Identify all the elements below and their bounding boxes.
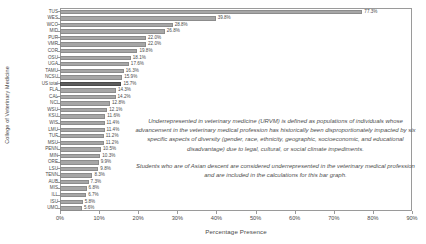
x-tick-mark <box>256 211 257 214</box>
x-tick-label: 30% <box>162 215 192 221</box>
bar-row: UMO5.6% <box>0 206 426 210</box>
bar <box>60 88 116 92</box>
category-label: FLA <box>18 87 58 93</box>
value-label: 5.8% <box>85 199 95 205</box>
category-label: PUR <box>18 35 58 41</box>
value-label: 15.9% <box>124 74 137 80</box>
bar <box>60 186 87 190</box>
category-label: NCI <box>18 100 58 106</box>
bar <box>60 36 146 40</box>
x-tick-label: 10% <box>84 215 114 221</box>
bar-rows: TUS77.3%WES39.8%WCO28.8%MID26.8%PUR22.0%… <box>0 8 426 211</box>
category-label: MSU <box>18 140 58 146</box>
annotation-block: Underrepresented in veterinary medicine … <box>133 117 418 180</box>
bar <box>60 62 129 66</box>
bar-row: NCI12.8% <box>0 101 426 105</box>
value-label: 19.8% <box>139 48 152 54</box>
category-label: COR <box>18 48 58 54</box>
bar <box>60 101 110 105</box>
category-label: AUB <box>18 179 58 185</box>
bar <box>60 160 99 164</box>
category-label: WCO <box>18 22 58 28</box>
x-tick-label: 70% <box>319 215 349 221</box>
x-tick-mark <box>295 211 296 214</box>
value-label: 26.8% <box>167 28 180 34</box>
bar <box>60 134 104 138</box>
bar <box>60 23 173 27</box>
bar <box>60 10 362 14</box>
bar <box>60 173 92 177</box>
category-label: ILL <box>18 192 58 198</box>
x-tick-label: 90% <box>397 215 426 221</box>
x-tick-mark <box>216 211 217 214</box>
bar <box>60 69 124 73</box>
annotation-paragraph-1: Underrepresented in veterinary medicine … <box>133 117 418 154</box>
x-tick-label: 50% <box>241 215 271 221</box>
category-label: WES <box>18 15 58 21</box>
category-label: ORE <box>18 159 58 165</box>
bar-row: ISU5.8% <box>0 200 426 204</box>
value-label: 9.8% <box>100 166 110 172</box>
category-label: NCSU <box>18 74 58 80</box>
bar-row: MID26.8% <box>0 29 426 33</box>
bar <box>60 141 104 145</box>
bar-row: WES39.8% <box>0 16 426 20</box>
category-label: VMR <box>18 41 58 47</box>
bar <box>60 16 216 20</box>
value-label: 14.2% <box>118 94 131 100</box>
x-tick-mark <box>334 211 335 214</box>
bar-chart: College of Veterinary Medicine TUS77.3%W… <box>0 0 426 244</box>
bar <box>60 147 101 151</box>
category-label: KSU <box>18 113 58 119</box>
x-axis-title: Percentage Presence <box>60 228 412 235</box>
bar <box>60 29 165 33</box>
value-label: 11.2% <box>106 140 119 146</box>
bar <box>60 95 116 99</box>
value-label: 14.3% <box>118 87 131 93</box>
bar <box>60 75 122 79</box>
category-label: OSU <box>18 55 58 61</box>
category-label: MID <box>18 28 58 34</box>
bar-row: US total15.7% <box>0 82 426 86</box>
bar <box>60 82 121 86</box>
bar-row: AUB7.3% <box>0 180 426 184</box>
category-label: LMU <box>18 127 58 133</box>
category-label: UGA <box>18 61 58 67</box>
x-tick-mark <box>99 211 100 214</box>
bar <box>60 154 100 158</box>
x-tick-mark <box>60 211 61 214</box>
x-tick-label: 20% <box>123 215 153 221</box>
bar-row: VMR22.0% <box>0 42 426 46</box>
bar <box>60 180 89 184</box>
x-tick-label: 0% <box>45 215 75 221</box>
bar <box>60 167 98 171</box>
category-label: PENN <box>18 146 58 152</box>
category-label: CAL <box>18 94 58 100</box>
value-label: 7.3% <box>91 179 101 185</box>
x-tick-mark <box>138 211 139 214</box>
bar-row: UGA17.6% <box>0 62 426 66</box>
x-tick-label: 80% <box>358 215 388 221</box>
category-label: TUF <box>18 133 58 139</box>
category-label: WSU <box>18 107 58 113</box>
value-label: 9.9% <box>101 159 111 165</box>
bar-row: WCO28.8% <box>0 23 426 27</box>
category-label: MIN <box>18 153 58 159</box>
category-label: TENN <box>18 172 58 178</box>
bar-row: WSU12.1% <box>0 108 426 112</box>
value-label: 16.3% <box>126 68 139 74</box>
category-label: US total <box>18 81 58 87</box>
value-label: 11.6% <box>107 113 120 119</box>
value-label: 18.1% <box>133 55 146 61</box>
annotation-paragraph-2: Students who are of Asian descent are co… <box>133 162 418 180</box>
value-label: 22.0% <box>148 41 161 47</box>
bar-row: COR19.8% <box>0 49 426 53</box>
bar-row: MIS6.8% <box>0 186 426 190</box>
bar-row: NCSU15.9% <box>0 75 426 79</box>
value-label: 11.2% <box>106 133 119 139</box>
category-label: TUS <box>18 9 58 15</box>
bar-row: TAMU16.3% <box>0 69 426 73</box>
x-tick-label: 60% <box>280 215 310 221</box>
value-label: 39.8% <box>218 15 231 21</box>
x-tick-mark <box>373 211 374 214</box>
